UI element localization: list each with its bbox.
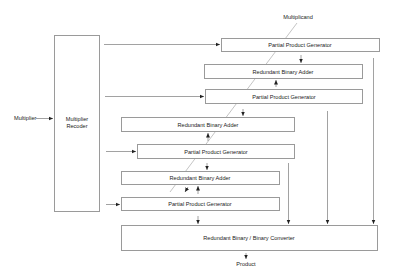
recoder-label-line2: Recoder [66, 123, 87, 129]
converter-label: Redundant Binary / Binary Converter [203, 235, 295, 241]
rba3-label: Redundant Binary Adder [170, 175, 231, 181]
product-output-label: Product [236, 261, 256, 267]
rba3-diag-arrow [185, 187, 188, 192]
ppg4-label: Partial Product Generator [168, 201, 232, 207]
rba2-label: Redundant Binary Adder [178, 122, 239, 128]
multiplier-input-label: Multiplier [14, 115, 37, 121]
recoder-label-line1: Multiplier [66, 116, 89, 122]
multiplicand-input-label: Multiplicand [283, 14, 313, 20]
ppg3-label: Partial Product Generator [184, 149, 248, 155]
ppg1-label: Partial Product Generator [268, 42, 332, 48]
ppg2-label: Partial Product Generator [252, 94, 316, 100]
multiplier-block-diagram: Multiplier Recoder Multiplier Multiplica… [0, 0, 394, 276]
rba1-label: Redundant Binary Adder [253, 69, 314, 75]
